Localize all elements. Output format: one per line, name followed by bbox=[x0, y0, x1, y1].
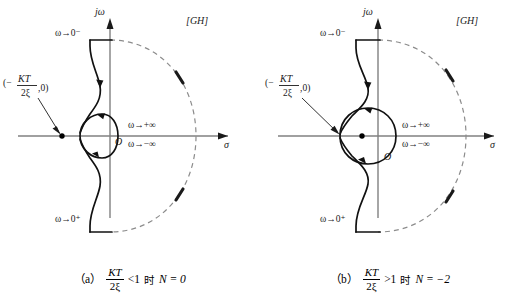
plane-label-b: [GH] bbox=[456, 15, 478, 26]
imag-axis-label-b: jω bbox=[361, 6, 373, 17]
origin-label-b: O bbox=[384, 151, 391, 162]
critical-point-open-paren-b: (− bbox=[265, 78, 274, 89]
critical-point-label-a: (− KT 2ξ ,0) bbox=[3, 73, 48, 99]
real-axis-b bbox=[278, 132, 494, 139]
caption-fraction-a: KT 2ξ bbox=[106, 267, 123, 292]
critical-point-open-paren-a: (− bbox=[3, 78, 12, 89]
omega-plus-infinity-label-a: ω→+∞ bbox=[128, 120, 156, 130]
caption-relation-b: >1 bbox=[384, 274, 396, 286]
critical-point-leader-b bbox=[302, 98, 338, 133]
plane-label-a: [GH] bbox=[186, 15, 208, 26]
caption-tag-a: （a） bbox=[74, 274, 101, 286]
critical-point-marker-b bbox=[359, 133, 364, 138]
caption-result-b: N = −2 bbox=[415, 274, 450, 286]
imag-axis-label-a: jω bbox=[93, 6, 105, 17]
critical-point-numerator-b: KT bbox=[279, 73, 294, 84]
omega-bottom-label-b: ω→0⁺ bbox=[320, 214, 346, 224]
caption-cn-a: 时 bbox=[144, 275, 154, 286]
panel-a: (− KT 2ξ ,0) jω σ O [GH] ω→0⁻ ω→0⁺ ω→+∞ … bbox=[0, 0, 260, 302]
nyquist-plot-b: (− KT 2ξ ,0) jω σ O [GH] ω→0⁻ ω→0⁺ ω→+∞ … bbox=[260, 0, 520, 258]
critical-point-numerator-a: KT bbox=[17, 73, 32, 84]
critical-point-label-b: (− KT 2ξ ,0) bbox=[265, 73, 310, 99]
panel-b: (− KT 2ξ ,0) jω σ O [GH] ω→0⁻ ω→0⁺ ω→+∞ … bbox=[260, 0, 520, 302]
caption-denominator-b: 2ξ bbox=[364, 280, 378, 292]
critical-point-denominator-b: 2ξ bbox=[283, 88, 293, 99]
caption-tag-b: （b） bbox=[330, 274, 358, 286]
critical-point-close-paren-b: ,0) bbox=[300, 83, 310, 94]
caption-result-a: N = 0 bbox=[159, 274, 186, 286]
critical-point-close-paren-a: ,0) bbox=[38, 83, 48, 94]
critical-point-leader-arrow-a bbox=[53, 126, 61, 134]
caption-fraction-b: KT 2ξ bbox=[363, 267, 380, 292]
real-axis-label-a: σ bbox=[224, 139, 230, 150]
omega-minus-infinity-label-b: ω→−∞ bbox=[402, 139, 430, 149]
omega-bottom-label-a: ω→0⁺ bbox=[55, 214, 81, 224]
caption-b: （b） KT 2ξ >1 时 N = −2 bbox=[260, 258, 520, 302]
imag-axis-b bbox=[375, 18, 382, 218]
omega-top-label-b: ω→0⁻ bbox=[320, 28, 346, 38]
nyquist-figure: (− KT 2ξ ,0) jω σ O [GH] ω→0⁻ ω→0⁺ ω→+∞ … bbox=[0, 0, 520, 302]
caption-relation-a: <1 bbox=[128, 274, 140, 286]
caption-numerator-a: KT bbox=[106, 267, 123, 280]
omega-minus-infinity-label-a: ω→−∞ bbox=[128, 139, 156, 149]
origin-label-a: O bbox=[115, 136, 122, 147]
critical-point-denominator-a: 2ξ bbox=[21, 88, 31, 99]
real-axis-label-b: σ bbox=[490, 139, 496, 150]
caption-denominator-a: 2ξ bbox=[108, 280, 122, 292]
caption-a: （a） KT 2ξ <1 时 N = 0 bbox=[0, 258, 260, 302]
omega-top-label-a: ω→0⁻ bbox=[55, 28, 81, 38]
nyquist-plot-a: (− KT 2ξ ,0) jω σ O [GH] ω→0⁻ ω→0⁺ ω→+∞ … bbox=[0, 0, 260, 258]
caption-numerator-b: KT bbox=[363, 267, 380, 280]
omega-plus-infinity-label-b: ω→+∞ bbox=[402, 120, 430, 130]
caption-cn-b: 时 bbox=[400, 275, 410, 286]
